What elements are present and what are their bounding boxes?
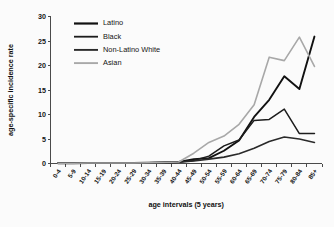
x-tick-label: 25-29: [123, 167, 138, 185]
x-tick-label: 75-79: [273, 167, 288, 185]
x-tick-label: 30-34: [138, 167, 153, 185]
y-tick-label: 20: [38, 61, 46, 70]
legend-label-asian: Asian: [103, 58, 122, 67]
chart-container: 051015202530 0-45-910-1415-1920-2425-293…: [0, 0, 334, 227]
x-axis-title: age intervals (5 years): [148, 200, 224, 209]
x-tick-label: 80-84: [288, 167, 303, 185]
legend-label-non-latino-white: Non-Latino White: [103, 45, 160, 54]
y-axis-title: age-specific incidence rate: [6, 44, 15, 136]
series-line-latino: [58, 37, 314, 164]
x-tick-label: 55-59: [213, 167, 228, 185]
x-tick-label: 45-49: [183, 167, 198, 185]
x-tick-label: 65-69: [243, 167, 258, 185]
x-tick-label: 20-24: [107, 167, 122, 185]
x-tick-label: 35-39: [153, 167, 168, 185]
y-tick-label: 0: [42, 159, 46, 168]
y-tick-label: 5: [42, 135, 46, 144]
legend-label-black: Black: [103, 32, 121, 41]
x-tick-label: 15-19: [92, 167, 107, 185]
x-tick-label: 40-44: [168, 167, 183, 185]
x-axis-ticks: 0-45-910-1415-1920-2425-2930-3435-3940-4…: [51, 164, 323, 185]
y-tick-label: 15: [38, 86, 46, 95]
x-tick-label: 5-9: [66, 167, 77, 179]
incidence-rate-line-chart: 051015202530 0-45-910-1415-1920-2425-293…: [0, 0, 334, 227]
y-axis-group: 051015202530: [38, 12, 51, 168]
y-axis-ticks: 051015202530: [38, 12, 51, 168]
x-tick-label: 0-4: [51, 167, 62, 179]
chart-legend: LatinoBlackNon-Latino WhiteAsian: [74, 18, 160, 67]
x-tick-label: 60-64: [228, 167, 243, 185]
legend-label-latino: Latino: [103, 18, 123, 27]
y-tick-label: 25: [38, 37, 46, 46]
x-tick-label: 10-14: [77, 167, 92, 185]
x-tick-label: 50-54: [198, 167, 213, 185]
series-line-black: [58, 109, 314, 163]
series-line-asian: [58, 37, 314, 163]
data-series-group: [58, 37, 314, 164]
x-axis-group: 0-45-910-1415-1920-2425-2930-3435-3940-4…: [51, 164, 323, 185]
y-tick-label: 10: [38, 110, 46, 119]
x-tick-label: 70-74: [258, 167, 273, 185]
y-tick-label: 30: [38, 12, 46, 21]
series-line-non-latino-white: [58, 137, 314, 163]
x-tick-label: 85+: [307, 167, 319, 180]
